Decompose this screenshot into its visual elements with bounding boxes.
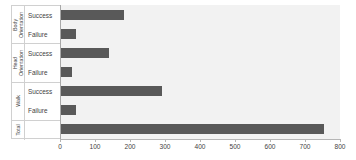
x-tick-label-400: 400 <box>194 143 205 150</box>
group-label-text: Walk <box>15 95 21 107</box>
bar-head-orientation-failure <box>60 67 72 77</box>
x-tick <box>270 139 271 142</box>
group-label-text: Head Orientation <box>12 50 24 76</box>
sub-label-column <box>25 121 61 140</box>
row-label-success: Success <box>25 6 61 25</box>
x-tick-label-800: 800 <box>334 143 345 150</box>
bar-head-orientation-success <box>60 48 109 58</box>
bar-body-orientation-success <box>60 10 124 20</box>
row-label-text: Success <box>28 50 52 58</box>
x-tick-label-500: 500 <box>229 143 240 150</box>
x-tick-label-300: 300 <box>159 143 170 150</box>
row-label-failure: Failure <box>25 102 61 121</box>
row-label-text: Success <box>28 12 52 20</box>
x-tick-label-100: 100 <box>89 143 100 150</box>
group-label-text: Body Orientation <box>12 12 24 38</box>
horizontal-bar-chart: Body OrientationSuccessFailureHead Orien… <box>0 0 356 160</box>
row-label-text: Failure <box>28 107 48 115</box>
x-tick <box>60 139 61 142</box>
row-label-text: Failure <box>28 31 48 39</box>
x-tick <box>200 139 201 142</box>
sub-label-column: SuccessFailure <box>25 44 61 81</box>
bar-body-orientation-failure <box>60 29 76 39</box>
row-label-success: Success <box>25 44 61 63</box>
row-label-failure: Failure <box>25 63 61 82</box>
group-label-walk: Walk <box>12 83 25 120</box>
y-axis-line <box>60 5 61 140</box>
group-label-total: Total <box>12 121 25 140</box>
group-block-head-orientation: Head OrientationSuccessFailure <box>12 44 61 82</box>
bar-total <box>60 124 324 134</box>
plot-area <box>60 5 340 139</box>
x-tick <box>95 139 96 142</box>
x-tick <box>340 139 341 142</box>
bar-walk-failure <box>60 105 76 115</box>
x-tick-label-200: 200 <box>124 143 135 150</box>
x-tick-label-700: 700 <box>299 143 310 150</box>
group-block-walk: WalkSuccessFailure <box>12 83 61 121</box>
group-label-head-orientation: Head Orientation <box>12 44 25 81</box>
group-label-body-orientation: Body Orientation <box>12 6 25 43</box>
x-tick <box>130 139 131 142</box>
group-block-body-orientation: Body OrientationSuccessFailure <box>12 6 61 44</box>
x-tick <box>235 139 236 142</box>
row-label-text: Failure <box>28 69 48 77</box>
row-label-total <box>25 121 61 140</box>
bar-walk-success <box>60 86 162 96</box>
row-label-text: Success <box>28 88 52 96</box>
sub-label-column: SuccessFailure <box>25 6 61 43</box>
group-block-total: Total <box>12 121 61 140</box>
x-tick <box>305 139 306 142</box>
x-tick <box>165 139 166 142</box>
group-label-text: Total <box>15 125 21 136</box>
row-label-table: Body OrientationSuccessFailureHead Orien… <box>11 5 60 139</box>
sub-label-column: SuccessFailure <box>25 83 61 120</box>
x-tick-label-600: 600 <box>264 143 275 150</box>
row-label-success: Success <box>25 83 61 102</box>
x-tick-label-0: 0 <box>58 143 62 150</box>
row-label-failure: Failure <box>25 25 61 44</box>
